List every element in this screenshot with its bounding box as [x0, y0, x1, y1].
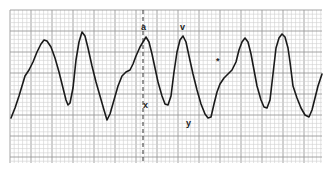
label-star-marker: * [216, 57, 220, 66]
label-y-descent: y [186, 119, 191, 128]
label-x-descent: x [143, 101, 148, 110]
label-a-wave: a [141, 23, 146, 32]
ecg-grid-plot [0, 0, 332, 170]
label-v-wave: v [180, 23, 185, 32]
jvp-tracing-figure: a v x y * [0, 0, 332, 170]
grid-paper [10, 10, 322, 163]
